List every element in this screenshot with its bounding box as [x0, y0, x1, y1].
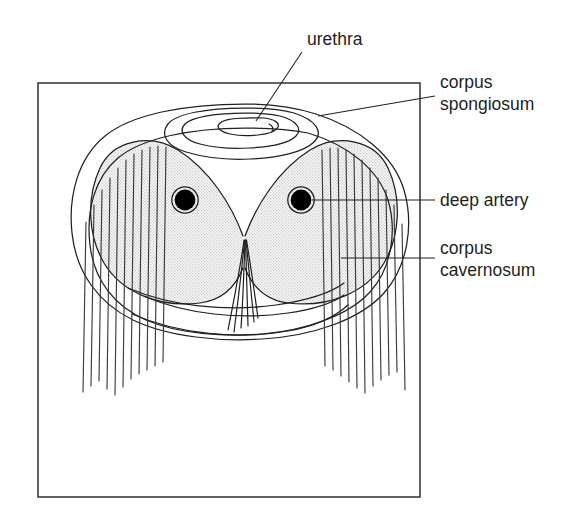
- urethra-lumen: [218, 118, 278, 136]
- label-corpus-cavernosum-line2: cavernosum: [440, 260, 535, 280]
- deep-artery-left: [172, 187, 198, 213]
- cross-section-diagram: urethra corpus spongiosum deep artery co…: [0, 0, 588, 531]
- corpus-spongiosum-outer-ring: [165, 108, 319, 159]
- label-corpus-spongiosum-line1: corpus: [440, 72, 493, 92]
- corpus-spongiosum-leader-line: [318, 96, 435, 116]
- label-corpus-cavernosum-line1: corpus: [440, 238, 493, 258]
- deep-artery-right: [288, 187, 314, 213]
- label-urethra: urethra: [307, 29, 363, 49]
- urethra-leader-line: [256, 52, 302, 121]
- anatomical-figure: urethra corpus spongiosum deep artery co…: [0, 0, 588, 531]
- label-deep-artery: deep artery: [440, 190, 529, 210]
- spongiosum-inner-detail: [269, 124, 273, 131]
- label-corpus-spongiosum-line2: spongiosum: [440, 94, 534, 114]
